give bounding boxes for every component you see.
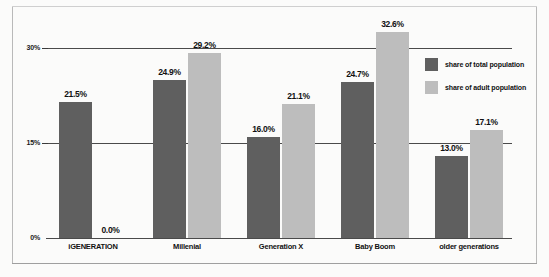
legend-swatch-icon bbox=[425, 81, 438, 94]
page-border-left bbox=[12, 6, 13, 264]
bar-group: 16.0%21.1%Generation X bbox=[234, 20, 328, 238]
chart-legend: share of total populationshare of adult … bbox=[425, 58, 526, 104]
legend-label: share of adult population bbox=[445, 84, 526, 91]
page-border-right bbox=[536, 6, 537, 264]
bar-series-container: 21.5%0.0%iGENERATION24.9%29.2%Millenial1… bbox=[46, 20, 516, 238]
bar-group: 21.5%0.0%iGENERATION bbox=[46, 20, 140, 238]
bar-value-label: 13.0% bbox=[429, 143, 474, 153]
bar-value-label: 21.1% bbox=[276, 91, 321, 101]
bar-group: 24.7%32.6%Baby Boom bbox=[328, 20, 422, 238]
bar[interactable] bbox=[470, 130, 503, 238]
bar-value-label: 16.0% bbox=[241, 124, 286, 134]
x-axis-category-label: older generations bbox=[414, 242, 524, 251]
legend-label: share of total population bbox=[445, 61, 524, 68]
bar-value-label: 24.9% bbox=[147, 67, 192, 77]
bar-value-label: 29.2% bbox=[182, 40, 227, 50]
legend-item[interactable]: share of total population bbox=[425, 58, 526, 71]
bar-group: 13.0%17.1%older generations bbox=[422, 20, 516, 238]
bar[interactable] bbox=[341, 82, 374, 238]
bar[interactable] bbox=[435, 156, 468, 238]
page-border-bottom bbox=[12, 263, 537, 264]
bar[interactable] bbox=[153, 80, 186, 238]
bar[interactable] bbox=[247, 137, 280, 238]
y-axis-tick-label: 0% bbox=[16, 234, 40, 241]
bar-group: 24.9%29.2%Millenial bbox=[140, 20, 234, 238]
legend-swatch-icon bbox=[425, 58, 438, 71]
bar[interactable] bbox=[376, 32, 409, 238]
bar[interactable] bbox=[59, 102, 92, 238]
bar-value-label: 17.1% bbox=[464, 117, 509, 127]
bar-value-label: 32.6% bbox=[370, 19, 415, 29]
bar[interactable] bbox=[282, 104, 315, 238]
y-axis-tick-label: 15% bbox=[16, 139, 40, 146]
bar-value-label: 0.0% bbox=[88, 225, 133, 235]
bar-value-label: 24.7% bbox=[335, 69, 380, 79]
chart-page: 0%15%30% 21.5%0.0%iGENERATION24.9%29.2%M… bbox=[0, 0, 549, 277]
bar[interactable] bbox=[188, 53, 221, 238]
legend-item[interactable]: share of adult population bbox=[425, 81, 526, 94]
plot-area: 0%15%30% 21.5%0.0%iGENERATION24.9%29.2%M… bbox=[46, 20, 516, 238]
page-border-top bbox=[12, 6, 537, 7]
y-axis-tick-label: 30% bbox=[16, 44, 40, 51]
bar-value-label: 21.5% bbox=[53, 89, 98, 99]
